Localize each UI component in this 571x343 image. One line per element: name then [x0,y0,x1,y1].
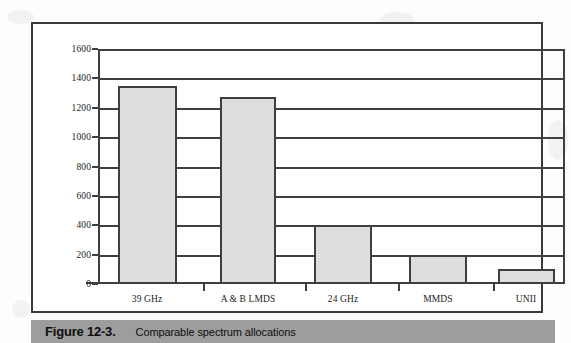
figure-frame: 1600 1400 1200 1000 800 600 400 200 0 [31,22,543,313]
y-tick-mark-1600 [92,48,98,50]
x-tick-mark-4 [493,284,495,291]
bar-mmds [409,255,467,284]
figure-caption-band: Figure 12-3. Comparable spectrum allocat… [31,320,555,343]
y-tick-label-1200: 1200 [72,103,91,113]
y-tick-label-1400: 1400 [72,73,91,83]
y-tick-label-200: 200 [76,250,91,260]
y-tick-mark-1400 [92,77,98,79]
x-tick-mark-2 [305,284,307,291]
y-tick-label-400: 400 [76,220,91,230]
bar-39-ghz [118,86,177,284]
x-tick-mark-3 [398,284,400,291]
x-tick-mark-1 [203,284,205,291]
scan-blotch [12,300,30,318]
figure-number-label: Figure 12-3. [45,324,116,339]
y-tick-label-1600: 1600 [72,44,91,54]
y-tick-mark-0 [92,283,98,285]
y-tick-mark-1000 [92,136,98,138]
bar-unii [498,269,555,284]
gridline-1600 [98,49,565,51]
x-tick-label-24-ghz: 24 GHz [328,294,358,304]
y-tick-label-1000: 1000 [72,132,91,142]
y-tick-mark-800 [92,166,98,168]
y-tick-mark-400 [92,224,98,226]
y-tick-mark-600 [92,195,98,197]
bar-a-b-lmds [220,97,276,284]
y-tick-mark-200 [92,254,98,256]
y-tick-label-0: 0 [86,279,91,289]
figure-caption-text: Comparable spectrum allocations [136,326,296,338]
bar-24-ghz [314,225,372,284]
x-tick-label-39-ghz: 39 GHz [132,294,162,304]
y-tick-mark-1200 [92,107,98,109]
bar-chart-plot-area: 1600 1400 1200 1000 800 600 400 200 0 [98,49,565,284]
y-tick-label-600: 600 [76,191,91,201]
y-tick-label-800: 800 [76,162,91,172]
x-tick-label-a-b-lmds: A & B LMDS [221,294,276,304]
x-tick-label-unii: UNII [516,294,536,304]
gridline-1400 [98,78,565,80]
page-background: 1600 1400 1200 1000 800 600 400 200 0 [0,0,571,343]
x-tick-label-mmds: MMDS [423,294,452,304]
